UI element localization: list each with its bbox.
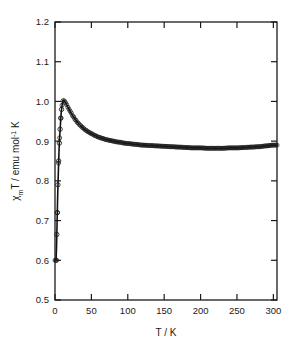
x-tick-label: 50 — [86, 305, 97, 316]
chi-t-vs-temperature-chart: 0.50.60.70.80.91.01.11.2 050100150200250… — [0, 0, 296, 352]
x-tick-label: 300 — [265, 305, 281, 316]
y-tick-label: 1.2 — [36, 16, 49, 27]
x-axis-title: T / K — [156, 327, 177, 338]
y-tick-label: 0.8 — [36, 175, 49, 186]
plot-area-background — [55, 22, 277, 300]
y-tick-label: 0.7 — [36, 215, 49, 226]
x-tick-label: 250 — [229, 305, 245, 316]
y-tick-label: 0.5 — [36, 294, 49, 305]
y-tick-label: 1.0 — [36, 96, 49, 107]
x-tick-label: 100 — [120, 305, 136, 316]
y-tick-label: 0.9 — [36, 136, 49, 147]
x-tick-label: 150 — [156, 305, 172, 316]
y-tick-label: 0.6 — [36, 255, 49, 266]
y-tick-label: 1.1 — [36, 56, 49, 67]
x-tick-label: 200 — [193, 305, 209, 316]
x-tick-label: 0 — [52, 305, 57, 316]
